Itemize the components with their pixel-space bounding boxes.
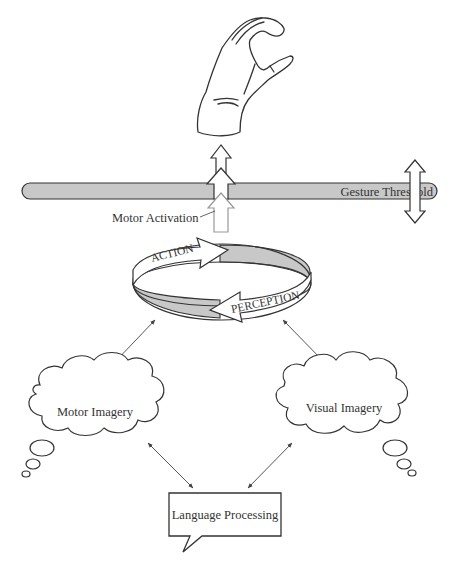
diagram-canvas: Gesture Threshold Motor Activation ACTIO… (0, 0, 449, 565)
motor-activation-leader-line (200, 211, 215, 217)
language-processing-label: Language Processing (172, 508, 279, 522)
language-processing-box (169, 493, 281, 552)
motor-imagery-language-connector (148, 443, 193, 488)
visual-imagery-language-connector (248, 443, 292, 488)
visual-imagery-label: Visual Imagery (306, 401, 383, 415)
hand-gesture-icon (197, 18, 293, 136)
motor-imagery-label: Motor Imagery (57, 405, 134, 419)
motor-activation-label: Motor Activation (112, 211, 199, 225)
perception-label: PERCEPTION (230, 289, 301, 315)
